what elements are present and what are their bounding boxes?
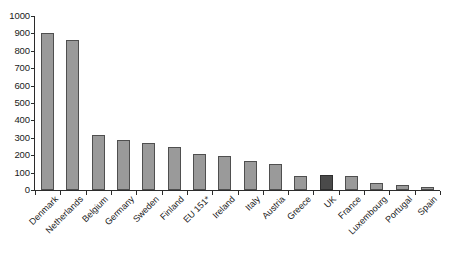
bar [269, 164, 282, 190]
bar [193, 154, 206, 190]
bar [370, 183, 383, 190]
bar-chart: 10009008007006005004003002001000 Denmark… [0, 0, 451, 255]
x-axis-category-labels: DenmarkNetherlandsBelgiumGermanySwedenFi… [0, 190, 451, 255]
y-axis-tick-label: 800 [0, 45, 30, 56]
bar [66, 40, 79, 191]
plot-area [35, 16, 440, 190]
bar [41, 33, 54, 190]
bar [117, 140, 130, 190]
x-axis-category-label: Spain [390, 194, 439, 243]
bar [320, 175, 333, 190]
y-axis-tick-label: 600 [0, 80, 30, 91]
y-axis-tick-label: 200 [0, 149, 30, 160]
y-axis-tick-label: 400 [0, 114, 30, 125]
y-axis-tick-label: 100 [0, 167, 30, 178]
bar [345, 176, 358, 190]
y-axis-tick-label: 500 [0, 97, 30, 108]
y-axis-tick-label: 1000 [0, 10, 30, 21]
bar [142, 143, 155, 190]
y-axis-tick-label: 700 [0, 62, 30, 73]
y-axis-tick-labels: 10009008007006005004003002001000 [0, 10, 30, 197]
bar [92, 135, 105, 190]
bar [294, 176, 307, 190]
bar [168, 147, 181, 191]
y-axis-tick-label: 300 [0, 132, 30, 143]
y-axis-tick-label: 900 [0, 27, 30, 38]
bar [244, 161, 257, 190]
bar [218, 156, 231, 190]
